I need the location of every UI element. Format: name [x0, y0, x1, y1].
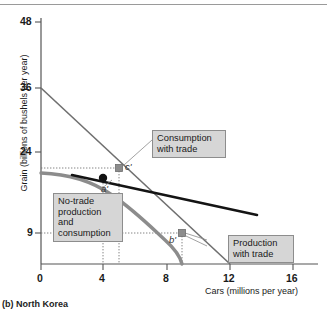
- y-tick-label-48: 48: [20, 15, 32, 27]
- x-axis-title: Cars (millions per year): [205, 286, 298, 296]
- callout-no-trade-production-and-consumption[interactable]: No-trade production and consumption: [53, 193, 123, 242]
- figure-panel: 48 36 24 9 0 4 8 12 16 Grain (billions o…: [0, 0, 327, 311]
- data-point-c[interactable]: [116, 165, 123, 172]
- callout-production-line2: with trade: [233, 249, 289, 260]
- point-label-c: c': [125, 161, 132, 172]
- callout-notrade-line2: production: [58, 207, 118, 218]
- callout-consumption-with-trade[interactable]: Consumption with trade: [152, 130, 226, 158]
- x-tick-marks: [41, 264, 293, 270]
- data-point-a[interactable]: [99, 174, 107, 182]
- point-label-b: b': [169, 234, 176, 245]
- callout-consumption-line2: with trade: [157, 144, 221, 155]
- y-tick-marks: [35, 22, 41, 233]
- callout-production-with-trade[interactable]: Production with trade: [228, 235, 294, 263]
- x-tick-label-12: 12: [223, 272, 235, 284]
- data-point-b[interactable]: [179, 230, 186, 237]
- callout-notrade-line1: No-trade: [58, 196, 118, 207]
- callout-consumption-line1: Consumption: [157, 133, 221, 144]
- y-axis-title: Grain (billions of bushels per year): [19, 53, 29, 193]
- x-tick-label-4: 4: [99, 272, 105, 284]
- x-tick-label-8: 8: [163, 272, 169, 284]
- y-tick-label-9: 9: [27, 226, 33, 238]
- callout-production-line1: Production: [233, 238, 289, 249]
- x-tick-label-16: 16: [286, 272, 298, 284]
- figure-caption: (b) North Korea: [2, 299, 68, 309]
- callout-notrade-line3: and: [58, 217, 118, 228]
- callout-notrade-line4: consumption: [58, 228, 118, 239]
- x-tick-label-0: 0: [37, 272, 43, 284]
